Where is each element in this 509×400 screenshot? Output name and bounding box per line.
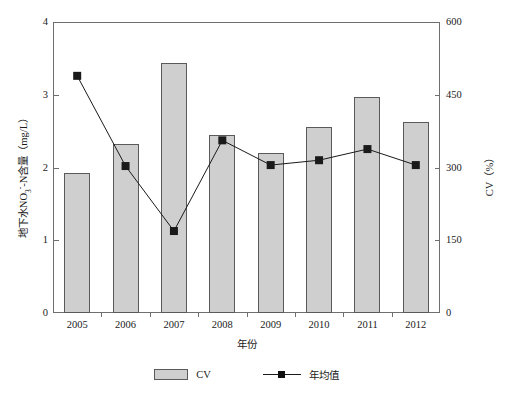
legend-line-swatch-icon xyxy=(263,369,301,380)
bar-2006[interactable] xyxy=(113,144,139,314)
y-right-tick-150: 150 xyxy=(446,235,462,246)
x-axis-tick-mark xyxy=(101,313,102,317)
bar-2009[interactable] xyxy=(258,153,284,313)
legend-bar-swatch-icon xyxy=(154,369,188,380)
bar-slot xyxy=(198,22,246,313)
bar-2011[interactable] xyxy=(354,97,380,313)
x-axis-label-2007: 2007 xyxy=(150,317,198,333)
y-left-tick-0: 0 xyxy=(43,308,48,319)
bar-slot xyxy=(53,22,101,313)
bar-series-cv xyxy=(53,22,440,313)
chart-figure: 01234 0150300450600 20052006200720082009… xyxy=(0,0,509,400)
y-right-tick-450: 450 xyxy=(446,90,462,101)
x-axis-title: 年份 xyxy=(53,336,440,351)
x-axis-label-2006: 2006 xyxy=(101,317,149,333)
x-axis-labels: 20052006200720082009201020112012 xyxy=(53,317,440,333)
bar-2010[interactable] xyxy=(306,127,332,313)
bar-2007[interactable] xyxy=(161,63,187,313)
x-axis-tick-mark xyxy=(150,313,151,317)
legend-label-annual-mean: 年均值 xyxy=(309,367,339,382)
y-left-tick-2: 2 xyxy=(43,162,48,173)
legend-label-cv: CV xyxy=(196,369,211,380)
bar-2005[interactable] xyxy=(64,173,90,313)
y-axis-right-ticks: 0150300450600 xyxy=(446,22,480,313)
bar-slot xyxy=(392,22,440,313)
y-axis-right-title: CV（%） xyxy=(481,95,496,255)
y-right-tick-300: 300 xyxy=(446,162,462,173)
bar-slot xyxy=(247,22,295,313)
bar-slot xyxy=(150,22,198,313)
x-axis-label-2008: 2008 xyxy=(198,317,246,333)
x-axis-label-2005: 2005 xyxy=(53,317,101,333)
legend-square-marker-icon xyxy=(278,371,285,378)
x-axis-label-2010: 2010 xyxy=(295,317,343,333)
x-axis-tick-mark xyxy=(343,313,344,317)
y-axis-left-title-suffix: -N含量（mg/L） xyxy=(18,113,29,187)
bar-slot xyxy=(343,22,391,313)
legend-item-cv[interactable]: CV xyxy=(154,369,211,380)
x-axis-label-2009: 2009 xyxy=(247,317,295,333)
x-axis-label-2012: 2012 xyxy=(392,317,440,333)
bar-2012[interactable] xyxy=(403,122,429,313)
x-axis-tick-mark xyxy=(198,313,199,317)
y-right-tick-600: 600 xyxy=(446,17,462,28)
y-left-tick-4: 4 xyxy=(43,17,48,28)
y-axis-left-title-sup: - xyxy=(16,187,25,190)
legend-item-annual-mean[interactable]: 年均值 xyxy=(263,367,339,382)
y-right-tick-0: 0 xyxy=(446,308,451,319)
x-axis-tick-mark xyxy=(247,313,248,317)
y-axis-left-title-prefix: 地下水NO xyxy=(18,193,29,238)
y-axis-left-title: 地下水NO3--N含量（mg/L） xyxy=(15,66,32,286)
x-axis-label-2011: 2011 xyxy=(343,317,391,333)
y-left-tick-1: 1 xyxy=(43,235,48,246)
x-axis-tick-mark xyxy=(295,313,296,317)
bar-2008[interactable] xyxy=(209,135,235,313)
bar-slot xyxy=(101,22,149,313)
x-axis-tick-mark xyxy=(392,313,393,317)
y-axis-left-title-sub: 3 xyxy=(24,189,33,193)
chart-legend: CV 年均值 xyxy=(53,362,440,386)
bar-slot xyxy=(295,22,343,313)
y-left-tick-3: 3 xyxy=(43,90,48,101)
